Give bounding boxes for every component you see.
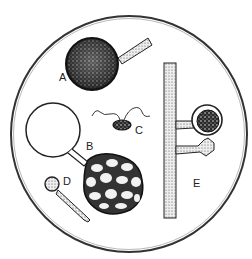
- label-a: A: [59, 71, 67, 83]
- label-d: D: [63, 175, 71, 187]
- spore-cluster: [84, 154, 143, 214]
- label-c: C: [135, 124, 143, 136]
- structure-e: [164, 63, 222, 218]
- structure-b: [26, 103, 88, 166]
- structure-a: [66, 38, 152, 90]
- label-e: E: [193, 177, 200, 189]
- label-b: B: [86, 140, 93, 152]
- diagram-canvas: A B C D: [0, 0, 252, 259]
